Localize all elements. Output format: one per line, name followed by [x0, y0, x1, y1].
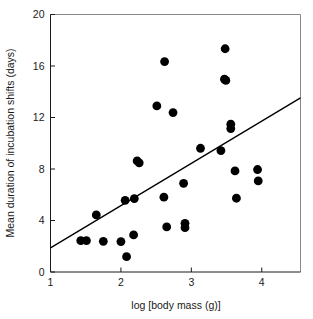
data-point [152, 102, 161, 111]
data-point [162, 223, 171, 232]
regression-line [51, 98, 301, 248]
data-point [179, 179, 188, 188]
y-tick-label: 20 [33, 8, 45, 20]
data-point [254, 177, 263, 186]
plot-frame-top-right [51, 15, 301, 273]
data-point [135, 158, 144, 167]
y-axis-label: Mean duration of incubation shifts (days… [4, 48, 16, 237]
x-tick-label: 2 [118, 276, 124, 288]
plot-canvas: 0481216201234 log [body mass (g)] Mean d… [0, 0, 313, 319]
data-point [217, 146, 226, 155]
y-tick-label: 8 [39, 163, 45, 175]
data-point [121, 196, 130, 205]
regression-line-path [51, 98, 301, 248]
data-points [76, 44, 262, 261]
data-point [129, 231, 138, 240]
data-point [117, 237, 126, 246]
data-point [226, 124, 235, 133]
x-tick-label: 3 [188, 276, 194, 288]
plot-frame-left-bottom [51, 15, 301, 273]
data-point [130, 194, 139, 203]
data-point [160, 57, 169, 66]
axis-tick-labels: 0481216201234 [33, 8, 265, 288]
data-point [122, 252, 131, 261]
x-axis-label: log [body mass (g)] [131, 299, 220, 311]
data-point [169, 108, 178, 117]
x-tick-label: 4 [259, 276, 265, 288]
plot-frame [51, 15, 301, 273]
scatter-plot-figure: 0481216201234 log [body mass (g)] Mean d… [0, 0, 313, 319]
y-tick-label: 0 [39, 266, 45, 278]
data-point [99, 237, 108, 246]
y-tick-label: 12 [33, 111, 45, 123]
data-point [231, 167, 240, 176]
x-tick-label: 1 [48, 276, 54, 288]
data-point [82, 236, 91, 245]
data-point [159, 193, 168, 202]
y-tick-label: 16 [33, 60, 45, 72]
axis-ticks [51, 15, 262, 273]
data-point [181, 223, 190, 232]
data-point [221, 76, 230, 85]
data-point [232, 194, 241, 203]
data-point [92, 211, 101, 220]
y-tick-label: 4 [39, 214, 45, 226]
data-point [253, 165, 262, 174]
data-point [196, 144, 205, 153]
data-point [221, 44, 230, 53]
